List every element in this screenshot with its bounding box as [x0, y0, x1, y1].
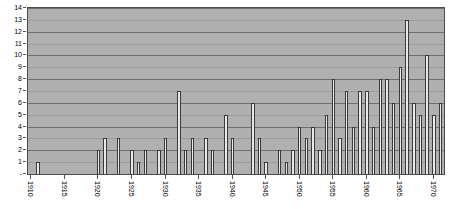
bar	[137, 162, 140, 174]
bar	[97, 150, 100, 174]
plot-area	[27, 7, 445, 175]
y-tick-label: -	[20, 170, 22, 177]
bar	[332, 79, 335, 174]
bar	[345, 91, 348, 174]
bar	[291, 150, 294, 174]
x-tick-label: 1935	[195, 181, 202, 197]
y-tick-mark	[23, 19, 26, 20]
bar	[325, 115, 328, 174]
y-tick-mark	[23, 149, 26, 150]
bar	[204, 138, 207, 174]
bar	[164, 138, 167, 174]
y-tick-label: 14	[14, 4, 22, 11]
y-tick-mark	[23, 137, 26, 138]
bar	[117, 138, 120, 174]
y-tick-label: 9	[18, 63, 22, 70]
y-tick-label: 8	[18, 75, 22, 82]
y-tick-label: 2	[18, 146, 22, 153]
x-tick-mark	[131, 175, 132, 179]
x-tick-mark	[265, 175, 266, 179]
bar	[157, 150, 160, 174]
bar	[305, 138, 308, 174]
bar	[177, 91, 180, 174]
x-tick-mark	[366, 175, 367, 179]
y-tick-label: 5	[18, 110, 22, 117]
bar	[103, 138, 106, 174]
y-tick-mark	[23, 66, 26, 67]
bar	[251, 103, 254, 174]
bar	[278, 150, 281, 174]
y-tick-label: 1	[18, 158, 22, 165]
bar	[372, 127, 375, 174]
bar	[285, 162, 288, 174]
x-tick-label: 1945	[262, 181, 269, 197]
x-tick-label: 1965	[396, 181, 403, 197]
x-tick-label: 1970	[430, 181, 437, 197]
y-tick-label: 3	[18, 134, 22, 141]
x-tick-label: 1920	[94, 181, 101, 197]
bar	[412, 103, 415, 174]
bar	[144, 150, 147, 174]
bar	[318, 150, 321, 174]
y-tick-mark	[23, 90, 26, 91]
y-tick-label: 11	[15, 39, 22, 46]
bar	[130, 150, 133, 174]
bar	[258, 138, 261, 174]
x-tick-label: 1915	[61, 181, 68, 197]
y-tick-mark	[23, 102, 26, 103]
x-tick-mark	[399, 175, 400, 179]
x-tick-mark	[64, 175, 65, 179]
y-tick-mark	[23, 161, 26, 162]
y-tick-mark	[23, 31, 26, 32]
x-tick-label: 1940	[229, 181, 236, 197]
x-tick-label: 1955	[329, 181, 336, 197]
bar	[439, 103, 442, 174]
bar	[405, 20, 408, 174]
x-tick-mark	[30, 175, 31, 179]
bar	[432, 115, 435, 174]
y-tick-mark	[23, 43, 26, 44]
y-tick-label: 6	[18, 98, 22, 105]
bar	[419, 115, 422, 174]
y-tick-label: 13	[14, 15, 22, 22]
y-tick-label: 4	[18, 122, 22, 129]
y-tick-label: 12	[14, 27, 22, 34]
y-tick-mark	[23, 173, 26, 174]
x-tick-mark	[299, 175, 300, 179]
bar	[191, 138, 194, 174]
bar	[224, 115, 227, 174]
bar	[392, 103, 395, 174]
bars-layer	[28, 8, 444, 174]
bar	[264, 162, 267, 174]
y-tick-mark	[23, 54, 26, 55]
bar	[338, 138, 341, 174]
y-tick-mark	[23, 7, 26, 8]
bar	[365, 91, 368, 174]
y-tick-label: 10	[14, 51, 22, 58]
x-tick-mark	[198, 175, 199, 179]
x-axis: 1910191519201925193019351940194519501955…	[27, 175, 445, 209]
x-tick-mark	[97, 175, 98, 179]
x-tick-label: 1910	[27, 181, 34, 197]
x-tick-label: 1930	[162, 181, 169, 197]
bar	[385, 79, 388, 174]
bar	[211, 150, 214, 174]
y-axis: -1234567891011121314	[0, 0, 26, 180]
x-tick-mark	[332, 175, 333, 179]
bar	[399, 67, 402, 174]
bar	[298, 127, 301, 174]
bar	[352, 127, 355, 174]
x-tick-mark	[165, 175, 166, 179]
y-tick-label: 7	[18, 87, 22, 94]
y-tick-mark	[23, 78, 26, 79]
bar-chart: -1234567891011121314 1910191519201925193…	[0, 0, 450, 209]
x-tick-mark	[433, 175, 434, 179]
bar	[358, 91, 361, 174]
x-tick-mark	[232, 175, 233, 179]
bar	[184, 150, 187, 174]
y-tick-mark	[23, 126, 26, 127]
bar	[311, 127, 314, 174]
bar	[425, 55, 428, 174]
bar	[231, 138, 234, 174]
bar	[379, 79, 382, 174]
